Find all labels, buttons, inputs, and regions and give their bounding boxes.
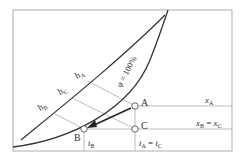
point-b (81, 126, 87, 132)
label-point-c: C (141, 120, 148, 131)
label-hb: hB (36, 100, 49, 114)
psychrometric-diagram: A C B φ = 100% hA hC hB xA xB = xC tB tA… (0, 0, 245, 158)
point-c (132, 126, 138, 132)
label-point-b: B (74, 132, 81, 143)
label-tb: tB (88, 138, 95, 149)
label-xa: xA (204, 95, 214, 106)
label-hc: hC (56, 84, 69, 98)
label-xb-equals-xc: xB = xC (195, 118, 222, 129)
label-ta-equals-tc: tA = tC (139, 138, 162, 149)
enthalpy-line-b (55, 114, 84, 129)
label-point-a: A (141, 97, 149, 108)
label-ha: hA (73, 67, 87, 81)
point-a (132, 103, 138, 109)
enthalpy-line-c (72, 98, 135, 129)
